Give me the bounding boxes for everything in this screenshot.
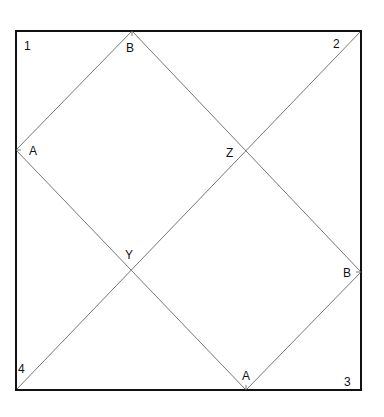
- corner-label-4: 4: [18, 362, 25, 376]
- corner-label-3: 3: [344, 375, 351, 389]
- corner-label-1: 1: [24, 39, 31, 53]
- point-label-a-left: A: [29, 144, 37, 158]
- point-label-a-bottom: A: [242, 369, 250, 383]
- point-label-z: Z: [226, 146, 233, 160]
- point-label-b-top: B: [126, 41, 134, 55]
- geometry-diagram: 1 2 3 4 B A Z Y B A: [0, 0, 384, 417]
- corner-label-2: 2: [333, 37, 340, 51]
- point-label-y: Y: [125, 248, 133, 262]
- diagonal-segment: [16, 31, 132, 150]
- diagonal-lines: [16, 31, 361, 390]
- diagonal-segment: [246, 272, 361, 390]
- diagonal-segment: [16, 31, 361, 390]
- point-label-b-right: B: [343, 266, 351, 280]
